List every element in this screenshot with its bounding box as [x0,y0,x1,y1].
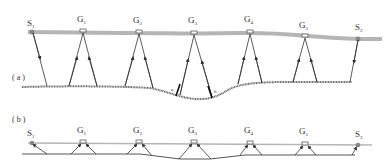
geophone-icon [191,31,197,34]
label-s2-b: S2 [355,129,363,140]
reflector-interface-a [22,82,352,99]
seismic-diagram: a b S1 G1 G2 G3 G4 G5 S2 ( a ) [0,0,387,167]
label-g1-b: G1 [77,125,87,136]
panel-a-label: ( a ) [12,73,25,82]
source-s1-a [30,30,35,35]
geophone-icon [136,30,142,33]
label-g3-b: G3 [188,125,198,136]
geophone-icon [191,140,197,143]
label-g2-b: G2 [133,125,143,136]
label-g4-b: G4 [244,125,254,136]
label-g4-a: G4 [244,14,254,25]
rays-a [33,33,358,97]
label-g2-a: G2 [133,15,143,26]
source-s1-b [30,141,35,146]
geophone-icon [80,140,86,143]
panel-b-label: ( b ) [12,115,26,124]
panel-a: a b S1 G1 G2 G3 G4 G5 S2 ( a ) [12,14,382,99]
label-g3-a: G3 [188,15,198,26]
rays-b [34,145,356,159]
geophone-icon [302,34,308,37]
label-s1-b: S1 [27,128,35,139]
label-s2-a: S2 [355,22,363,33]
source-s2-b [356,143,361,148]
highlight-segment-a [176,84,180,96]
panel-b: S1 G1 G2 G3 G4 G5 S2 ( b ) [12,115,372,159]
label-s1-a: S1 [27,18,35,29]
label-g1-a: G1 [77,14,87,25]
geophone-icon [136,140,142,143]
ground-surface-a [28,32,382,39]
geophone-icon [302,142,308,145]
marker-a: a [171,87,174,92]
highlight-segment-b [208,86,212,98]
geophone-icon [247,30,253,33]
geophone-icon [80,29,86,32]
label-g5-b: G5 [299,126,309,137]
label-g5-a: G5 [299,20,309,31]
marker-b: b [214,89,217,94]
reflector-interface-b [22,154,355,159]
ground-surface-b [28,143,372,145]
geophone-icon [247,141,253,144]
